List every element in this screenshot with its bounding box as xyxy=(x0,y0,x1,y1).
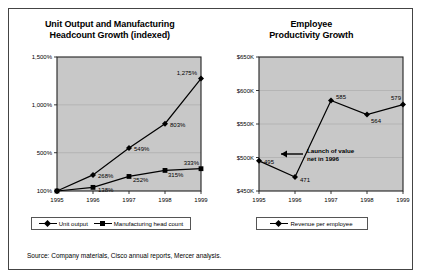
chart-svg-left: 100%500%1,000%1,500%19951996199719981999… xyxy=(9,41,211,221)
svg-text:564: 564 xyxy=(371,118,382,124)
svg-text:1999: 1999 xyxy=(396,197,410,203)
chart-title-right-line1: Employee xyxy=(211,19,413,30)
svg-text:$600K: $600K xyxy=(236,88,253,94)
source-note: Source: Company materials, Cisco annual … xyxy=(27,252,221,259)
chart-title-right: Employee Productivity Growth xyxy=(211,9,413,41)
svg-text:1997: 1997 xyxy=(324,197,338,203)
legend-label-revenue-per-employee: Revenue per employee xyxy=(290,221,352,227)
svg-text:333%: 333% xyxy=(184,160,200,166)
plot-area-right: $450K$500K$550K$600K$650K199519961997199… xyxy=(211,41,413,221)
svg-text:471: 471 xyxy=(300,177,311,183)
chart-panel-productivity: Employee Productivity Growth $450K$500K$… xyxy=(211,9,413,237)
svg-text:net in 1996: net in 1996 xyxy=(307,155,340,162)
legend-label-unit-output: Unit output xyxy=(59,221,88,227)
svg-text:$450K: $450K xyxy=(236,188,253,194)
svg-text:100%: 100% xyxy=(37,188,53,194)
legend-item-unit-output: Unit output xyxy=(39,220,88,227)
diamond-marker-icon xyxy=(270,220,288,227)
svg-text:585: 585 xyxy=(336,94,347,100)
square-marker-icon xyxy=(94,220,112,227)
svg-text:1997: 1997 xyxy=(122,197,136,203)
svg-text:1995: 1995 xyxy=(50,197,64,203)
svg-text:1,000%: 1,000% xyxy=(32,102,53,108)
chart-title-right-line2: Productivity Growth xyxy=(211,30,413,41)
charts-row: Unit Output and Manufacturing Headcount … xyxy=(9,9,412,237)
legend-item-head-count: Manufacturing head count xyxy=(94,220,183,227)
legend-item-revenue-per-employee: Revenue per employee xyxy=(270,220,352,227)
diamond-marker-icon xyxy=(39,220,57,227)
svg-text:1996: 1996 xyxy=(86,197,100,203)
chart-title-left-line2: Headcount Growth (indexed) xyxy=(9,30,211,41)
svg-text:1998: 1998 xyxy=(158,197,172,203)
svg-text:$650K: $650K xyxy=(236,54,253,60)
svg-text:315%: 315% xyxy=(168,172,184,178)
svg-text:$500K: $500K xyxy=(236,155,253,161)
svg-text:Launch of value: Launch of value xyxy=(307,147,355,154)
svg-text:549%: 549% xyxy=(134,146,150,152)
legend-left: Unit output Manufacturing head count xyxy=(31,217,191,230)
svg-text:268%: 268% xyxy=(98,173,114,179)
chart-svg-right: $450K$500K$550K$600K$650K199519961997199… xyxy=(211,41,413,221)
svg-text:252%: 252% xyxy=(133,177,149,183)
plot-area-left: 100%500%1,000%1,500%19951996199719981999… xyxy=(9,41,211,221)
svg-text:1996: 1996 xyxy=(288,197,302,203)
slide-frame: Unit Output and Manufacturing Headcount … xyxy=(8,8,413,270)
svg-text:138%: 138% xyxy=(98,187,114,193)
chart-title-left-line1: Unit Output and Manufacturing xyxy=(9,19,211,30)
legend-right: Revenue per employee xyxy=(256,217,368,230)
svg-text:1999: 1999 xyxy=(194,197,208,203)
svg-text:1,275%: 1,275% xyxy=(177,70,198,76)
chart-panel-unit-output: Unit Output and Manufacturing Headcount … xyxy=(9,9,211,237)
svg-text:803%: 803% xyxy=(170,122,186,128)
svg-text:495: 495 xyxy=(264,159,275,165)
legend-label-head-count: Manufacturing head count xyxy=(114,221,183,227)
svg-text:500%: 500% xyxy=(37,150,53,156)
svg-text:579: 579 xyxy=(390,95,401,101)
svg-text:$550K: $550K xyxy=(236,121,253,127)
svg-text:1,500%: 1,500% xyxy=(32,54,53,60)
svg-text:1995: 1995 xyxy=(252,197,266,203)
chart-title-left: Unit Output and Manufacturing Headcount … xyxy=(9,9,211,41)
svg-text:1998: 1998 xyxy=(360,197,374,203)
